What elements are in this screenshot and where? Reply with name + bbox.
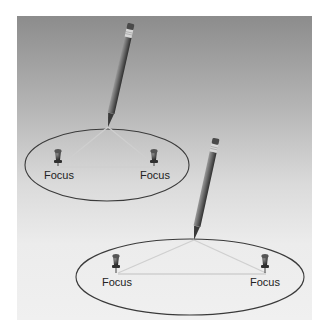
pencil-icon <box>105 23 135 128</box>
focus-label: Focus <box>140 169 170 181</box>
pushpin-icon <box>54 149 62 166</box>
focus-label: Focus <box>250 276 280 288</box>
pushpin-icon <box>261 254 269 273</box>
ellipse-outline <box>25 129 189 201</box>
pencil-icon <box>191 138 220 241</box>
focus-label: Focus <box>44 169 74 181</box>
focus-label: Focus <box>102 276 132 288</box>
pushpin-icon <box>112 254 120 273</box>
pushpin-icon <box>150 149 158 166</box>
diagram-2 <box>76 138 304 315</box>
string-triangle <box>118 240 266 274</box>
string-triangle <box>60 127 156 167</box>
